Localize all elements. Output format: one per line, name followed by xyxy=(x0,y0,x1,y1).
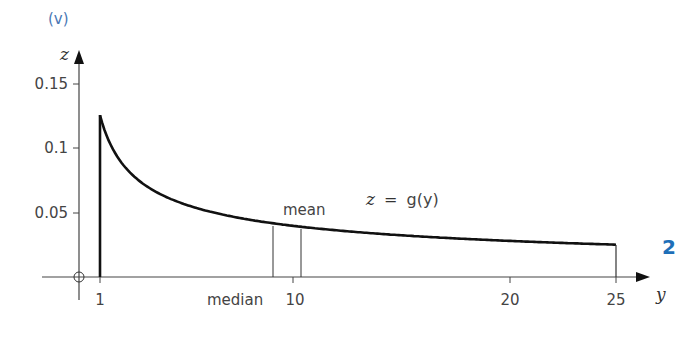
part-label: (v) xyxy=(48,10,69,28)
z-ticks: 0.15 0.1 0.05 xyxy=(35,75,79,222)
y-tick-20: 20 xyxy=(500,291,519,309)
z-tick-015: 0.15 xyxy=(35,75,68,93)
y-axis-arrow-icon xyxy=(74,50,84,64)
z-tick-005: 0.05 xyxy=(35,204,68,222)
mean-label: mean xyxy=(283,201,326,219)
y-tick-1: 1 xyxy=(95,291,105,309)
y-axis-label: y xyxy=(655,284,666,304)
question-number: 2 xyxy=(662,235,676,259)
curve-g-of-y xyxy=(100,115,616,244)
y-tick-25: 25 xyxy=(606,291,625,309)
chart: (v) z y 0.15 0.1 0.05 1 10 20 25 median … xyxy=(0,0,690,340)
z-tick-01: 0.1 xyxy=(44,139,68,157)
median-label: median xyxy=(207,291,263,309)
function-label: z = g(y) xyxy=(365,189,439,209)
y-ticks: 1 10 20 25 xyxy=(95,277,625,309)
x-axis-arrow-icon xyxy=(636,272,650,282)
y-tick-10: 10 xyxy=(285,291,304,309)
z-axis-label: z xyxy=(59,44,70,64)
